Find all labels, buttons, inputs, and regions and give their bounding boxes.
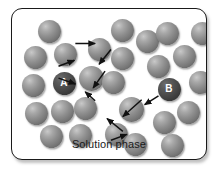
particle xyxy=(111,19,134,42)
particle xyxy=(22,74,45,97)
diagram-frame: AB Solution phase xyxy=(11,8,207,160)
particle xyxy=(51,100,74,123)
particle xyxy=(189,71,208,94)
particle xyxy=(24,46,47,69)
particle-layer: AB xyxy=(12,9,206,159)
particle-label: A xyxy=(60,78,67,88)
particle xyxy=(25,102,48,125)
particle-b: B xyxy=(158,78,181,101)
particle xyxy=(156,22,179,45)
solution-phase-figure: AB Solution phase xyxy=(0,0,224,177)
particle xyxy=(153,111,176,134)
particle xyxy=(177,101,200,124)
particle xyxy=(54,43,77,66)
particle-label: B xyxy=(165,84,172,94)
particle xyxy=(147,55,170,78)
particle-a: A xyxy=(53,72,76,95)
particle xyxy=(79,66,104,91)
particle xyxy=(173,45,196,68)
particle xyxy=(88,38,111,61)
particle xyxy=(74,97,97,120)
particle xyxy=(191,22,208,45)
figure-caption: Solution phase xyxy=(12,138,206,150)
particle xyxy=(102,71,125,94)
particle xyxy=(119,97,144,122)
particle xyxy=(111,47,134,70)
particle xyxy=(38,20,61,43)
